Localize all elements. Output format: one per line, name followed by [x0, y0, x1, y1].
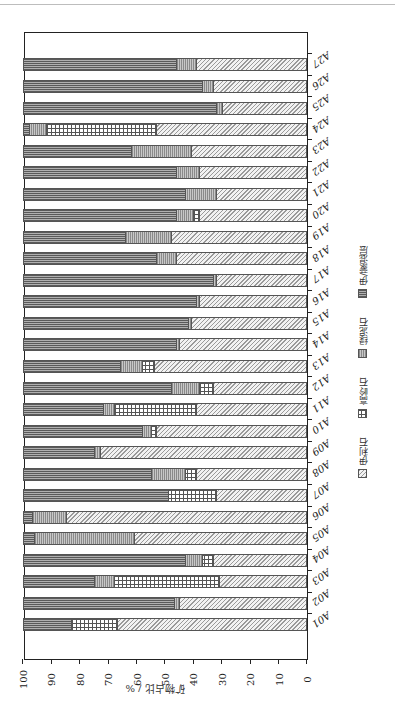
- bar-segment-0: [134, 532, 307, 545]
- bar-A14: [23, 339, 307, 352]
- bar-segment-0: [196, 59, 307, 72]
- bar-segment-2: [29, 123, 46, 136]
- bar-segment-2: [176, 59, 196, 72]
- bar-A06: [23, 511, 307, 524]
- legend-label: 伊利石: [357, 438, 370, 465]
- bar-segment-1: [168, 489, 216, 502]
- bar-A16: [23, 295, 307, 308]
- bar-segment-1: [46, 123, 157, 136]
- bar-segment-3: [23, 166, 176, 179]
- bar-segment-3: [23, 145, 131, 158]
- bar-segment-0: [154, 360, 307, 373]
- y-tick: [307, 376, 312, 377]
- bar-segment-0: [199, 209, 307, 222]
- legend-label: 高岭石: [357, 378, 370, 405]
- legend-swatch-icon: [359, 289, 368, 298]
- bar-segment-0: [213, 80, 307, 93]
- legend-swatch-icon: [359, 469, 368, 478]
- bar-segment-3: [23, 209, 176, 222]
- legend: 伊利石高岭石绿泥石伊/蒙混层: [353, 248, 373, 478]
- bar-segment-1: [114, 403, 196, 416]
- bar-A19: [23, 231, 307, 244]
- legend-item: 伊利石: [353, 438, 373, 478]
- bar-segment-3: [23, 274, 213, 287]
- bar-segment-0: [100, 446, 307, 459]
- x-tick-label: 70: [103, 665, 114, 695]
- bar-segment-0: [191, 145, 307, 158]
- bar-segment-2: [216, 102, 222, 115]
- bar-segment-3: [23, 425, 142, 438]
- bar-segment-3: [23, 80, 202, 93]
- bar-A10: [23, 425, 307, 438]
- bar-segment-3: [23, 468, 151, 481]
- bar-segment-2: [157, 252, 177, 265]
- bar-segment-2: [213, 274, 216, 287]
- y-tick: [307, 139, 312, 140]
- y-tick: [307, 161, 312, 162]
- bar-A11: [23, 403, 307, 416]
- bar-segment-1: [142, 360, 153, 373]
- y-tick: [307, 96, 312, 97]
- x-tick-label: 30: [216, 665, 227, 695]
- x-tick: [108, 659, 109, 664]
- bar-A01: [23, 619, 307, 632]
- bar-segment-3: [23, 446, 94, 459]
- y-tick: [307, 75, 312, 76]
- bar-segment-0: [176, 252, 307, 265]
- bar-A02: [23, 597, 307, 610]
- bar-A17: [23, 274, 307, 287]
- bar-segment-2: [174, 597, 180, 610]
- bar-A03: [23, 575, 307, 588]
- bar-A21: [23, 188, 307, 201]
- bar-segment-0: [199, 166, 307, 179]
- x-tick: [79, 659, 80, 664]
- y-tick: [307, 441, 312, 442]
- y-tick: [307, 484, 312, 485]
- y-tick: [307, 570, 312, 571]
- bar-segment-1: [202, 554, 213, 567]
- y-tick: [307, 182, 312, 183]
- y-tick: [307, 312, 312, 313]
- x-tick-label: 90: [46, 665, 57, 695]
- bar-segment-1: [114, 575, 219, 588]
- bar-segment-0: [216, 489, 307, 502]
- bar-segment-1: [71, 619, 116, 632]
- y-tick: [307, 527, 312, 528]
- bar-segment-2: [188, 317, 191, 330]
- x-tick-label: 40: [188, 665, 199, 695]
- bar-segment-0: [171, 231, 307, 244]
- bar-segment-3: [23, 532, 34, 545]
- x-tick: [250, 659, 251, 664]
- bar-segment-0: [213, 382, 307, 395]
- bar-segment-2: [34, 532, 133, 545]
- y-tick: [307, 398, 312, 399]
- bar-segment-2: [176, 209, 193, 222]
- x-tick-label: 100: [18, 665, 29, 695]
- bar-segment-3: [23, 123, 29, 136]
- bar-segment-2: [94, 575, 114, 588]
- bar-segment-3: [23, 403, 103, 416]
- y-tick: [307, 118, 312, 119]
- bar-A13: [23, 360, 307, 373]
- bar-A26: [23, 80, 307, 93]
- bar-A27: [23, 59, 307, 72]
- bar-segment-3: [23, 597, 174, 610]
- bar-segment-3: [23, 295, 196, 308]
- bar-segment-3: [23, 102, 216, 115]
- bar-segment-0: [66, 511, 307, 524]
- legend-swatch-icon: [359, 409, 368, 418]
- y-tick: [307, 355, 312, 356]
- bar-segment-3: [23, 554, 185, 567]
- bar-segment-3: [23, 317, 188, 330]
- bar-segment-2: [185, 188, 216, 201]
- bar-segment-0: [216, 274, 307, 287]
- plot-area: 0102030405060708090100A01A02A03A04A05A06…: [24, 32, 308, 660]
- bar-segment-2: [131, 145, 191, 158]
- bar-segment-0: [213, 554, 307, 567]
- bar-segment-2: [125, 231, 170, 244]
- bar-segment-2: [176, 166, 199, 179]
- bar-A12: [23, 382, 307, 395]
- y-tick: [307, 462, 312, 463]
- bar-segment-0: [216, 188, 307, 201]
- bar-segment-3: [23, 188, 185, 201]
